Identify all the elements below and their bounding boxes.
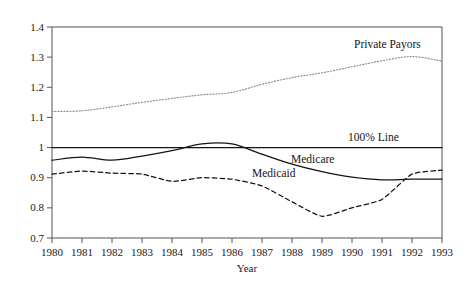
series-line-private-payors — [52, 57, 442, 112]
series-line-medicaid — [52, 170, 442, 216]
y-tick-label: 1.2 — [8, 82, 44, 93]
y-tick-label: 1.1 — [8, 112, 44, 123]
series-label-100-line: 100% Line — [348, 131, 399, 143]
series-label-medicare: Medicare — [291, 153, 334, 165]
y-tick-label: 0.7 — [8, 233, 44, 244]
x-tick-label: 1993 — [424, 247, 460, 258]
y-tick-label: 1.3 — [8, 52, 44, 63]
series-label-medicaid: Medicaid — [252, 167, 295, 179]
series-line-medicare — [52, 143, 442, 180]
y-tick-label: 1 — [8, 142, 44, 153]
y-tick-label: 1.4 — [8, 22, 44, 33]
x-axis-title: Year — [207, 263, 287, 274]
y-tick-label: 0.8 — [8, 202, 44, 213]
x-axis-ticks — [52, 238, 442, 243]
series-label-private-payors: Private Payors — [354, 38, 421, 50]
chart-figure: 0.70.80.911.11.21.31.4 19801981198219831… — [0, 0, 476, 294]
y-axis-ticks — [47, 27, 52, 238]
y-tick-label: 0.9 — [8, 172, 44, 183]
